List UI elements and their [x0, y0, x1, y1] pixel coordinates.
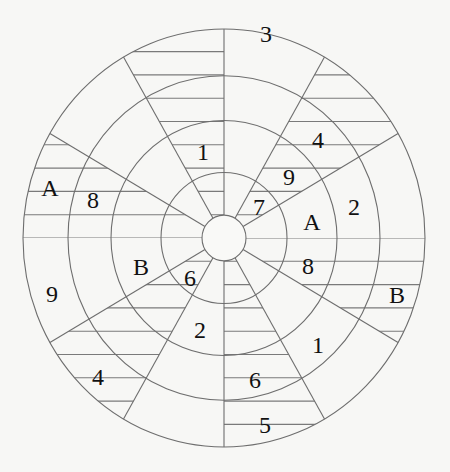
cell-label: B [389, 282, 405, 308]
spoke [243, 249, 398, 342]
polar-diagram: 3149A872AB869B21465 [0, 0, 450, 472]
cell-label: 6 [249, 367, 261, 393]
cell-label: 6 [184, 265, 196, 291]
cell-label: 4 [312, 127, 324, 153]
hub-circle [202, 215, 246, 261]
cell-label: B [133, 254, 149, 280]
cell-label: 8 [302, 253, 314, 279]
cell-label: 4 [92, 364, 104, 390]
cell-label: 8 [87, 187, 99, 213]
spoke [124, 57, 214, 218]
spoke [50, 249, 205, 342]
cell-label: A [41, 175, 59, 201]
cell-label: 7 [253, 194, 265, 220]
cell-label: 1 [312, 332, 324, 358]
cell-label: 9 [46, 281, 58, 307]
cell-label: 3 [260, 21, 272, 47]
cell-label: 2 [194, 317, 206, 343]
diagram-canvas: 3149A872AB869B21465 [0, 0, 450, 472]
cell-label: 9 [283, 164, 295, 190]
cell-label: 1 [197, 139, 209, 165]
spoke [50, 134, 205, 227]
cell-label: 5 [259, 412, 271, 438]
cell-label: 2 [348, 194, 360, 220]
center-hub [202, 215, 246, 261]
cell-label: A [303, 209, 321, 235]
